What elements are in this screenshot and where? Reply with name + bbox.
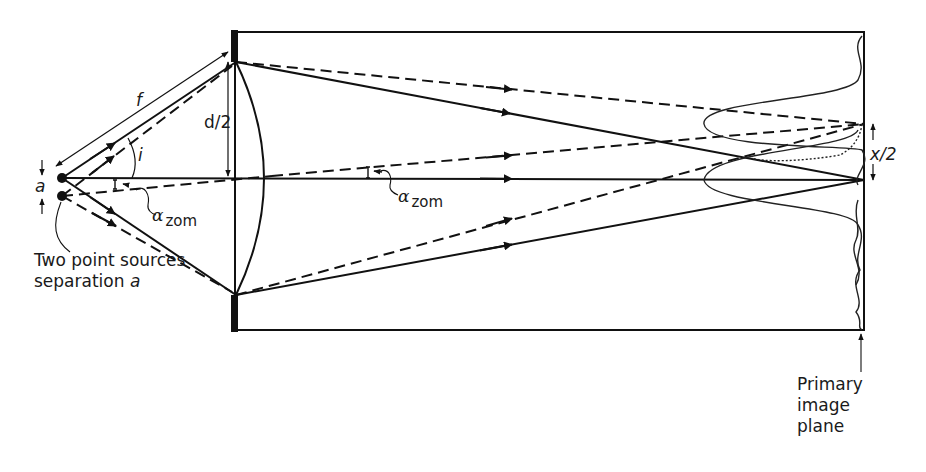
optics-diagram [0, 0, 926, 472]
alpha-subscript: zom [165, 212, 197, 230]
alpha-symbol: α [398, 186, 409, 206]
sources-caption-line2: separation a [34, 271, 185, 292]
sources-leader-line [56, 202, 70, 252]
image-plane-line3: plane [797, 416, 863, 437]
caption-prefix: separation [34, 271, 130, 291]
sources-caption-line1: Two point sources [34, 250, 185, 271]
image-plane-line1: Primary [797, 374, 863, 395]
caption-var: a [130, 271, 140, 291]
half-aperture-label: d/2 [204, 112, 231, 132]
alpha-subscript: zom [411, 193, 443, 211]
alpha-zom-label-left: αzom [152, 205, 197, 226]
image-plane-caption: Primary image plane [797, 374, 863, 437]
image-half-separation-label: x/2 [870, 144, 897, 164]
optical-axis [62, 178, 864, 180]
x-half-text: x/2 [870, 144, 897, 164]
half-angle-label: i [138, 145, 143, 165]
alpha-symbol: α [152, 205, 163, 225]
image-plane-line2: image [797, 395, 863, 416]
aperture-stop-top [231, 30, 238, 62]
aperture-stop-bottom [231, 295, 238, 332]
source-separation-label: a [35, 176, 45, 196]
focal-length-label: f [136, 90, 142, 110]
tube-body [235, 32, 864, 330]
sources-caption: Two point sources separation a [34, 250, 185, 292]
alpha-zom-label-right: αzom [398, 186, 443, 207]
